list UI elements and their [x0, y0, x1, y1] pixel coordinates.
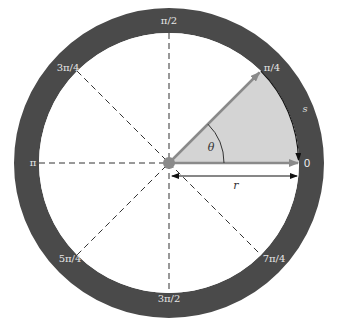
label-r: r: [233, 179, 239, 192]
label-pi-over-4: π/4: [264, 62, 280, 73]
label-3pi-over-4: 3π/4: [57, 62, 80, 73]
label-pi-over-2: π/2: [161, 15, 177, 26]
label-pi: π: [30, 157, 37, 168]
label-theta: θ: [208, 141, 215, 154]
center-point: [163, 157, 175, 169]
radian-circle-diagram: π/2 π/4 3π/4 π 0 5π/4 7π/4 3π/2 θ r s: [0, 0, 340, 328]
label-s: s: [302, 103, 307, 114]
label-5pi-over-4: 5π/4: [59, 253, 82, 264]
label-zero: 0: [304, 157, 310, 169]
label-7pi-over-4: 7π/4: [263, 253, 286, 264]
label-3pi-over-2: 3π/2: [158, 293, 181, 304]
